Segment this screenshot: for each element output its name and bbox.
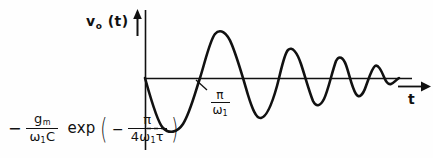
formula-paren-close: ): [171, 118, 178, 141]
up-arrow-icon: [133, 9, 142, 36]
formula-gm-over-omega1c: gm ω1C: [26, 112, 58, 146]
waveform-figure: vo (t) t π ω1 − gm ω1C exp ( − π 4ω1τ ) …: [0, 0, 433, 158]
formula-leading-minus: −: [8, 121, 24, 137]
period-annotation-numerator: π: [203, 89, 237, 102]
formula-gm-subscript: m: [43, 118, 51, 127]
y-axis-label-v: v: [86, 13, 96, 29]
formula-tau: τ: [156, 129, 164, 144]
formula-exp-keyword: exp: [60, 121, 95, 136]
period-annotation-omega-subscript: 1: [222, 109, 227, 118]
formula-capacitance-c: C: [46, 129, 55, 144]
formula-pi: π: [140, 113, 154, 128]
formula-omega1-omega: ω: [29, 129, 40, 144]
formula-pi-over-4omega1tau: π 4ω1τ: [128, 113, 167, 145]
formula-paren-open: (: [100, 118, 107, 141]
period-annotation-omega: ω: [212, 103, 222, 117]
formula-gm-g: g: [34, 111, 43, 126]
x-axis-label: t: [408, 92, 415, 106]
period-annotation-denominator: ω1: [203, 103, 237, 118]
formula-tau-omega: ω: [139, 129, 150, 144]
formula-inner-minus: −: [111, 122, 126, 136]
right-arrow-icon: [398, 82, 431, 92]
amplitude-formula: − gm ω1C exp ( − π 4ω1τ ): [8, 112, 180, 146]
period-annotation: π ω1: [203, 89, 237, 118]
formula-omega1c: ω1C: [26, 129, 58, 145]
formula-coefficient-4: 4: [131, 129, 140, 144]
damped-sinusoid-curve: [145, 31, 399, 132]
y-axis-label-arg: (t): [102, 13, 128, 29]
formula-4omega1tau: 4ω1τ: [128, 129, 167, 145]
formula-gm: gm: [31, 112, 54, 128]
y-axis-label: vo (t): [86, 14, 129, 31]
